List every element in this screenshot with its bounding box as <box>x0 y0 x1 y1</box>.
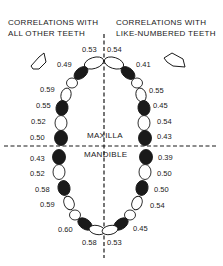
tooth-upper-right-6 <box>138 116 150 131</box>
tooth-lower-right-6 <box>139 165 151 180</box>
tooth-lower-left-4 <box>62 195 77 212</box>
maxilla-right-value-4: 0.45 <box>153 101 168 110</box>
mandible-left-value-6: 0.58 <box>82 238 97 247</box>
maxilla-left-value-1: 0.53 <box>82 45 97 54</box>
mandible-right-value-6: 0.53 <box>107 238 122 247</box>
maxilla-left-value-6: 0.50 <box>30 133 45 142</box>
mandible-left-value-5: 0.60 <box>58 225 73 234</box>
mandible-right-value-5: 0.45 <box>133 224 148 233</box>
tooth-upper-left-7 <box>55 131 68 146</box>
arrow-pointing-left-icon <box>31 53 46 69</box>
maxilla-left-value-5: 0.52 <box>31 117 46 126</box>
tooth-lower-right-4 <box>130 195 145 212</box>
mandible-left-value-1: 0.43 <box>30 154 45 163</box>
maxilla-right-value-1: 0.54 <box>107 45 122 54</box>
mandible-right-value-1: 0.39 <box>158 153 173 162</box>
arrow-pointing-right-icon <box>164 53 185 67</box>
maxilla-right-value-2: 0.41 <box>136 60 151 69</box>
tooth-lower-left-6 <box>53 165 65 180</box>
maxilla-left-value-4: 0.55 <box>36 101 51 110</box>
mandible-left-value-3: 0.58 <box>35 185 50 194</box>
maxilla-right-value-5: 0.54 <box>157 117 172 126</box>
mandible-right-value-4: 0.54 <box>150 201 165 210</box>
mandible-left-value-2: 0.52 <box>30 169 45 178</box>
mandible-left-value-4: 0.59 <box>40 200 55 209</box>
maxilla-label: MAXILLA <box>87 131 123 140</box>
maxilla-left-value-3: 0.59 <box>40 85 55 94</box>
maxilla-left-value-2: 0.49 <box>57 60 72 69</box>
mandible-label: MANDIBLE <box>84 150 127 159</box>
tooth-upper-left-3 <box>67 78 78 88</box>
tooth-lower-right-7 <box>140 150 153 165</box>
tooth-upper-right-5 <box>137 100 151 117</box>
maxilla-right-value-6: 0.43 <box>157 132 172 141</box>
tooth-upper-right-3 <box>132 78 143 88</box>
mandible-right-value-2: 0.50 <box>157 169 172 178</box>
tooth-upper-left-5 <box>55 100 69 117</box>
mandible-right-value-3: 0.50 <box>154 185 169 194</box>
tooth-lower-right-5 <box>135 179 150 196</box>
tooth-lower-left-7 <box>53 150 66 165</box>
tooth-upper-left-6 <box>55 116 67 131</box>
tooth-upper-right-7 <box>139 131 152 146</box>
maxilla-right-value-3: 0.55 <box>149 86 164 95</box>
tooth-lower-left-5 <box>57 179 72 196</box>
